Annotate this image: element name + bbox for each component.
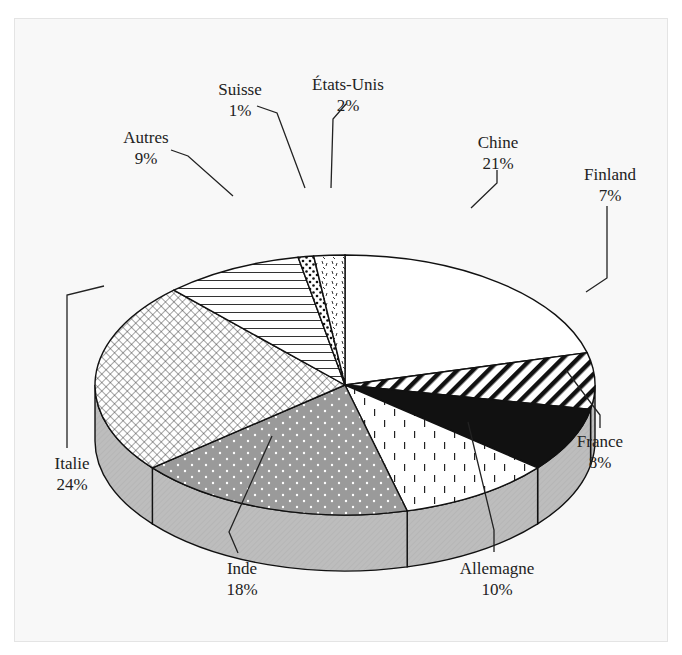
slice-label-pct: 1%: [229, 101, 252, 120]
slice-label-name: Finland: [584, 165, 636, 184]
leader-line: [471, 170, 497, 208]
pie-slices: [95, 255, 595, 515]
slice-label-pct: 9%: [135, 149, 158, 168]
slice-label-name: États-Unis: [312, 75, 384, 94]
slice-label-pct: 2%: [337, 96, 360, 115]
slice-label-pct: 21%: [482, 154, 513, 173]
slice-label-pct: 8%: [589, 453, 612, 472]
leader-line: [257, 106, 305, 188]
leader-line: [331, 104, 346, 188]
leader-line: [171, 150, 233, 196]
slice-label-name: France: [577, 432, 623, 451]
slice-label-name: Italie: [55, 454, 90, 473]
slice-label-name: Allemagne: [460, 559, 535, 578]
slice-label-pct: 7%: [599, 186, 622, 205]
slice-label-pct: 24%: [56, 475, 87, 494]
pie-chart: Chine21%Finland7%France8%Allemagne10%Ind…: [0, 0, 682, 655]
slice-label-pct: 10%: [481, 580, 512, 599]
leader-line: [586, 206, 607, 292]
slice-label-name: Chine: [478, 133, 519, 152]
slice-label-name: Autres: [123, 128, 168, 147]
slice-label-name: Inde: [227, 559, 257, 578]
slice-label-pct: 18%: [226, 580, 257, 599]
slice-label-name: Suisse: [218, 80, 261, 99]
